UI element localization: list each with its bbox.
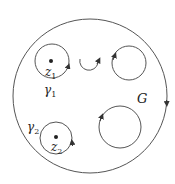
region-label-G: G — [137, 91, 147, 106]
point-z1 — [49, 59, 53, 63]
hole-bottom-right — [99, 106, 141, 148]
gamma1-label: γ1 — [44, 83, 56, 99]
small-arc — [80, 59, 99, 70]
point-z2 — [54, 135, 58, 139]
gamma2-arrow-icon — [72, 142, 73, 146]
z1-label: z1 — [44, 65, 56, 81]
z2-label: z2 — [50, 140, 62, 156]
gamma2-label: γ2 — [27, 120, 39, 136]
contour-gamma1: z1 γ1 — [35, 44, 69, 99]
contour-gamma2: z2 γ2 — [27, 120, 73, 156]
diagram-canvas: z1 γ1 G z2 γ2 — [0, 0, 175, 184]
hole-top-right — [112, 46, 146, 80]
